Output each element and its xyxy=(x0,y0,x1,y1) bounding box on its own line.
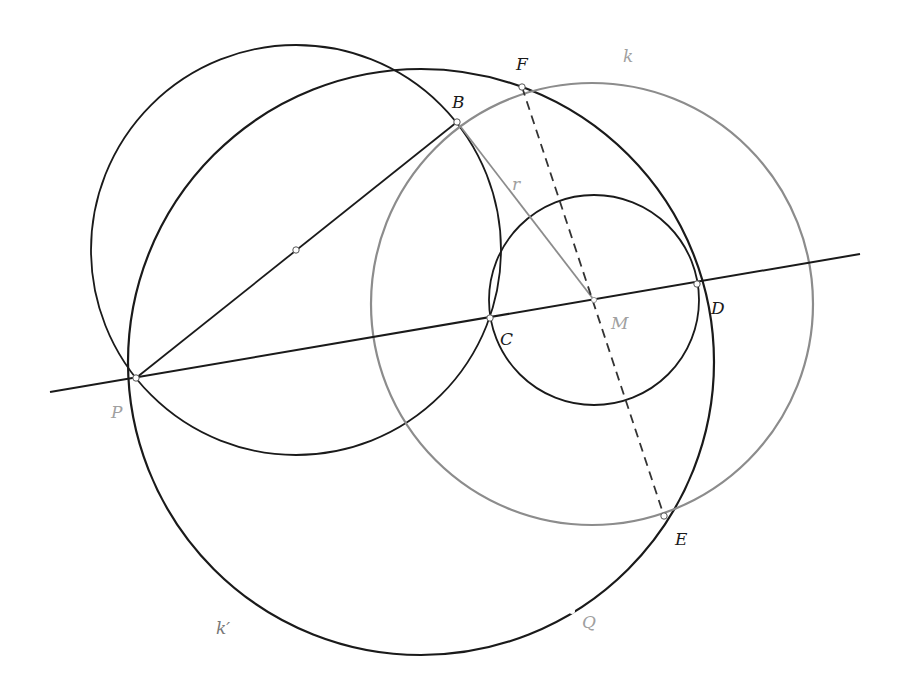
point-c xyxy=(487,315,493,321)
point-f xyxy=(519,84,525,90)
line-pd xyxy=(50,254,860,392)
label-c: C xyxy=(500,329,513,349)
label-f: F xyxy=(515,54,529,74)
label-q: Q xyxy=(582,612,596,632)
label-e: E xyxy=(674,529,688,549)
point-midpoint-pb xyxy=(293,247,299,253)
point-m xyxy=(591,297,596,302)
label-k-prime: k′ xyxy=(216,618,230,638)
circle-k-prime xyxy=(128,69,714,655)
segment-r xyxy=(457,122,594,300)
point-e xyxy=(661,513,667,519)
circle-k xyxy=(371,83,813,525)
label-r: r xyxy=(512,174,521,194)
point-q-gap xyxy=(569,608,575,614)
label-p: P xyxy=(110,402,123,422)
point-d xyxy=(694,281,700,287)
label-b: B xyxy=(451,92,465,112)
label-k: k xyxy=(623,46,633,66)
point-p xyxy=(133,375,139,381)
point-b xyxy=(454,119,460,125)
geometry-diagram: F k B r C M D P E Q k′ xyxy=(0,0,906,684)
label-m: M xyxy=(610,313,629,333)
label-d: D xyxy=(710,298,725,318)
